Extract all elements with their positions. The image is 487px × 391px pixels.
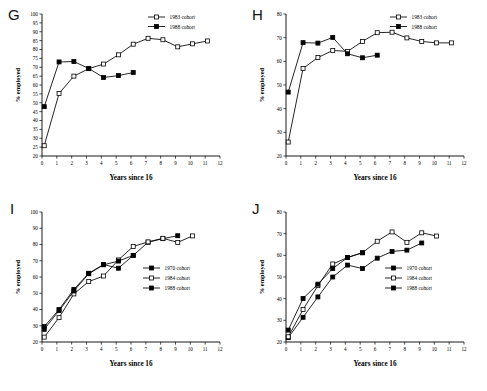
svg-text:9: 9 <box>418 160 421 166</box>
series-line-1970-cohort <box>44 236 178 327</box>
data-point <box>435 41 439 45</box>
svg-text:8: 8 <box>159 160 162 166</box>
data-point <box>420 231 424 235</box>
svg-text:60: 60 <box>277 58 283 64</box>
legend-label: 1988 cohort <box>165 285 191 291</box>
x-axis-title: Years since 16 <box>109 360 153 368</box>
series-line-1970-cohort <box>288 243 422 338</box>
data-point <box>331 48 335 52</box>
legend-label: 1988 cohort <box>170 24 196 30</box>
data-point <box>405 248 409 252</box>
legend-label: 1970 cohort <box>165 265 191 271</box>
svg-text:6: 6 <box>130 346 133 352</box>
svg-text:3: 3 <box>329 346 332 352</box>
chart-I: 20304050607080901000123456789101112Years… <box>0 196 244 391</box>
chart-G: 2025303540455055606570758085909510001234… <box>0 0 244 196</box>
data-point <box>146 36 150 40</box>
data-point <box>161 38 165 42</box>
y-axis-title: % employed <box>258 259 265 294</box>
data-point <box>375 239 379 243</box>
svg-text:20: 20 <box>33 153 39 159</box>
legend-label: 1988 cohort <box>412 24 438 30</box>
data-point <box>102 263 106 267</box>
svg-text:12: 12 <box>461 346 467 352</box>
y-axis-title: % employed <box>14 67 21 102</box>
svg-text:40: 40 <box>33 117 39 123</box>
data-point <box>72 289 76 293</box>
svg-text:2: 2 <box>70 160 73 166</box>
data-point <box>131 71 135 75</box>
data-point <box>131 42 135 46</box>
data-point <box>191 42 195 46</box>
panel-J: J 203040506070800123456789101112Years si… <box>244 196 487 391</box>
legend-marker <box>397 25 401 29</box>
data-point <box>286 328 290 332</box>
svg-text:10: 10 <box>432 160 438 166</box>
svg-text:3: 3 <box>329 160 332 166</box>
svg-text:4: 4 <box>100 346 103 352</box>
data-point <box>286 140 290 144</box>
svg-text:12: 12 <box>461 160 467 166</box>
svg-text:0: 0 <box>285 160 288 166</box>
legend-marker <box>150 276 154 280</box>
svg-text:30: 30 <box>33 135 39 141</box>
svg-text:6: 6 <box>374 160 377 166</box>
data-point <box>375 256 379 260</box>
panel-H: H 203040506070800123456789101112Years si… <box>244 0 487 196</box>
series-line-1988-cohort <box>288 253 362 330</box>
data-point <box>57 60 61 64</box>
legend-marker <box>392 276 396 280</box>
svg-text:1: 1 <box>56 346 59 352</box>
svg-text:2: 2 <box>314 346 317 352</box>
svg-text:11: 11 <box>203 346 208 352</box>
svg-text:4: 4 <box>344 160 347 166</box>
svg-text:50: 50 <box>33 100 39 106</box>
svg-text:30: 30 <box>33 323 39 329</box>
series-line-1983-cohort <box>288 32 451 142</box>
data-point <box>57 92 61 96</box>
data-point <box>301 296 305 300</box>
svg-text:90: 90 <box>33 29 39 35</box>
data-point <box>42 144 46 148</box>
svg-text:100: 100 <box>30 209 38 215</box>
chart-H: 203040506070800123456789101112Years sinc… <box>244 0 487 196</box>
svg-text:80: 80 <box>277 209 283 215</box>
panel-I: I 20304050607080901000123456789101112Yea… <box>0 196 244 391</box>
svg-text:11: 11 <box>447 160 452 166</box>
plot-I: 20304050607080901000123456789101112Years… <box>0 196 244 391</box>
data-point <box>331 267 335 271</box>
data-point <box>301 308 305 312</box>
data-point <box>42 335 46 339</box>
data-point <box>420 39 424 43</box>
x-axis-title: Years since 16 <box>353 174 397 182</box>
data-point <box>57 316 61 320</box>
data-point <box>316 282 320 286</box>
data-point <box>360 267 364 271</box>
svg-text:6: 6 <box>130 160 133 166</box>
legend-marker <box>392 266 396 270</box>
x-axis-title: Years since 16 <box>353 360 397 368</box>
data-point <box>346 52 350 56</box>
svg-text:5: 5 <box>115 346 118 352</box>
panel-G: G 20253035404550556065707580859095100012… <box>0 0 244 196</box>
svg-text:70: 70 <box>277 35 283 41</box>
svg-text:50: 50 <box>277 82 283 88</box>
series-line-1988-cohort <box>288 37 377 92</box>
chart-J: 203040506070800123456789101112Years sinc… <box>244 196 487 391</box>
data-point <box>405 240 409 244</box>
svg-text:30: 30 <box>277 317 283 323</box>
data-point <box>331 262 335 266</box>
data-point <box>116 259 120 263</box>
data-point <box>42 327 46 331</box>
svg-text:10: 10 <box>188 346 194 352</box>
figure-panel-grid: G 20253035404550556065707580859095100012… <box>0 0 487 391</box>
data-point <box>176 45 180 49</box>
svg-text:8: 8 <box>159 346 162 352</box>
svg-text:80: 80 <box>277 11 283 17</box>
svg-text:12: 12 <box>217 160 223 166</box>
svg-text:20: 20 <box>277 153 283 159</box>
svg-text:4: 4 <box>100 160 103 166</box>
svg-text:7: 7 <box>145 160 148 166</box>
svg-text:3: 3 <box>85 160 88 166</box>
legend-marker <box>392 286 396 290</box>
